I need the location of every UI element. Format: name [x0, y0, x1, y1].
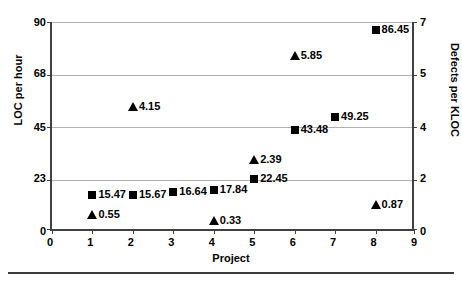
y-tick-left-23: 23: [12, 172, 46, 183]
data-label-loc-3: 16.64: [179, 185, 207, 198]
y-tick-left-90: 90: [12, 17, 46, 28]
square-marker-icon: [169, 188, 177, 196]
gridline-90: [52, 22, 412, 23]
tick-x-7: [335, 229, 336, 234]
square-marker-icon: [129, 191, 137, 199]
y-axis-right-title: Defects per KLOC: [449, 25, 461, 155]
y-axis-right-ticks: 0 2 4 5 7: [420, 22, 440, 231]
scatter-chart: 0 23 45 68 90 0 2 4 5 7: [0, 0, 462, 287]
square-marker-icon: [88, 191, 96, 199]
y-tick-right-5: 5: [420, 68, 440, 79]
x-tick-8: 8: [364, 236, 384, 248]
x-tick-2: 2: [121, 236, 141, 248]
gridline-23: [52, 180, 412, 181]
tick-x-5: [254, 229, 255, 234]
data-label-defects-8: 0.87: [382, 198, 403, 211]
triangle-marker-icon: [371, 200, 381, 209]
tick-right-7: [412, 22, 417, 23]
plot-area: 15.47 15.67 16.64 17.84 22.45 43.48 49.2…: [50, 22, 414, 231]
x-tick-1: 1: [80, 236, 100, 248]
gridline-45: [52, 127, 412, 128]
tick-x-9: [414, 229, 415, 234]
square-marker-icon: [291, 126, 299, 134]
triangle-marker-icon: [209, 216, 219, 225]
data-label-defects-1: 0.55: [98, 208, 119, 221]
tick-x-6: [295, 229, 296, 234]
tick-x-1: [92, 229, 93, 234]
tick-left-23: [47, 180, 52, 181]
x-tick-5: 5: [242, 236, 262, 248]
x-axis-title: Project: [0, 252, 462, 264]
x-tick-6: 6: [283, 236, 303, 248]
data-label-defects-5: 2.39: [260, 153, 281, 166]
tick-right-4: [412, 127, 417, 128]
data-label-loc-1: 15.47: [98, 188, 126, 201]
data-label-defects-6: 5.85: [301, 49, 322, 62]
tick-x-0: [52, 229, 53, 234]
y-tick-right-7: 7: [420, 17, 440, 28]
tick-right-5: [412, 75, 417, 76]
data-label-loc-6: 43.48: [301, 123, 329, 136]
y-tick-right-4: 4: [420, 121, 440, 132]
data-label-loc-7: 49.25: [341, 110, 369, 123]
tick-left-68: [47, 75, 52, 76]
y-axis-left-title: LOC per hour: [12, 30, 24, 150]
footer-divider: [8, 272, 454, 274]
tick-x-8: [376, 229, 377, 234]
tick-x-3: [173, 229, 174, 234]
data-label-defects-2: 4.15: [139, 100, 160, 113]
triangle-marker-icon: [87, 210, 97, 219]
triangle-marker-icon: [249, 155, 259, 164]
tick-x-4: [214, 229, 215, 234]
x-tick-3: 3: [161, 236, 181, 248]
triangle-marker-icon: [290, 51, 300, 60]
tick-right-2: [412, 180, 417, 181]
x-tick-0: 0: [40, 236, 60, 248]
y-tick-right-2: 2: [420, 172, 440, 183]
data-label-loc-8: 86.45: [382, 23, 410, 36]
tick-left-45: [47, 127, 52, 128]
data-label-defects-4: 0.33: [220, 214, 241, 227]
triangle-marker-icon: [128, 102, 138, 111]
tick-x-2: [133, 229, 134, 234]
tick-left-90: [47, 22, 52, 23]
data-label-loc-4: 17.84: [220, 183, 248, 196]
square-marker-icon: [331, 113, 339, 121]
y-tick-right-0: 0: [420, 226, 440, 237]
data-label-loc-5: 22.45: [260, 172, 288, 185]
square-marker-icon: [210, 186, 218, 194]
x-tick-4: 4: [202, 236, 222, 248]
square-marker-icon: [372, 26, 380, 34]
square-marker-icon: [250, 175, 258, 183]
x-tick-9: 9: [404, 236, 424, 248]
y-tick-left-0: 0: [12, 226, 46, 237]
data-label-loc-2: 15.67: [139, 188, 167, 201]
x-axis-ticks: 0 1 2 3 4 5 6 7 8 9: [50, 236, 414, 250]
x-tick-7: 7: [323, 236, 343, 248]
gridline-68: [52, 75, 412, 76]
